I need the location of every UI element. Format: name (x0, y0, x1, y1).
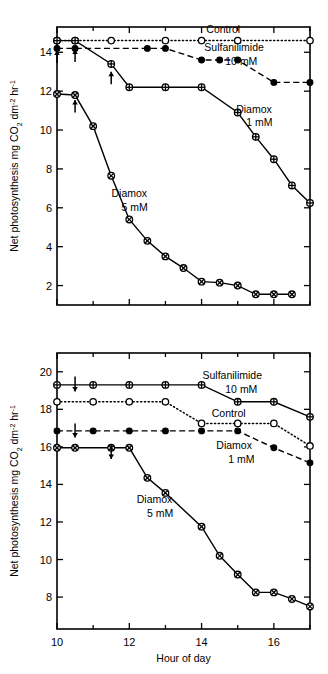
data-point (289, 291, 296, 298)
series-diamox-1-mm (54, 428, 313, 466)
x-tick-label: 10 (51, 636, 63, 648)
data-point (90, 399, 96, 405)
marker-filled-circle (235, 428, 241, 434)
series-annotation: Control (206, 23, 240, 35)
series-annotation: 5 mM (122, 201, 148, 213)
marker-open-circle (54, 399, 60, 405)
y-tick-label: 10 (40, 124, 52, 136)
panel-top: 2468101214ControlSulfanilimide10 mMDiamo… (40, 23, 314, 305)
x-tick-label: 14 (195, 636, 207, 648)
y-tick-label: 20 (40, 366, 52, 378)
treatment-arrow (72, 376, 78, 391)
data-point (289, 596, 296, 603)
series-diamox-1-mm (54, 37, 314, 206)
marker-open-circle (108, 37, 114, 43)
data-point (234, 399, 241, 406)
data-point (307, 603, 314, 610)
data-point (307, 460, 313, 466)
data-point (252, 589, 259, 596)
data-point (126, 216, 133, 223)
data-point (271, 445, 277, 451)
data-point (307, 414, 314, 421)
marker-open-circle (307, 37, 313, 43)
data-point (271, 156, 278, 163)
data-point (307, 443, 313, 449)
data-point (199, 57, 205, 63)
data-point (108, 172, 115, 179)
data-point (271, 420, 277, 426)
data-point (72, 445, 79, 452)
marker-filled-circle (126, 428, 132, 434)
data-point (289, 182, 296, 189)
data-point (54, 445, 61, 452)
data-point (144, 238, 151, 245)
data-point (144, 475, 151, 482)
data-point (90, 428, 96, 434)
series-diamox-5-mm (54, 445, 314, 610)
y-tick-label: 18 (40, 403, 52, 415)
series-control (54, 37, 313, 43)
data-point (126, 428, 132, 434)
data-point (307, 37, 313, 43)
data-point (54, 37, 61, 44)
series-line (57, 448, 310, 607)
data-point (54, 428, 60, 434)
x-tick-label: 12 (123, 636, 135, 648)
y-tick-label: 6 (46, 202, 52, 214)
data-point (108, 61, 115, 68)
y-tick-label: 4 (46, 241, 52, 253)
y-tick-label: 16 (40, 441, 52, 453)
marker-filled-circle (90, 428, 96, 434)
data-point (72, 37, 79, 44)
data-point (126, 445, 133, 452)
marker-open-circle (126, 399, 132, 405)
data-point (198, 84, 205, 91)
marker-filled-circle (199, 57, 205, 63)
y-tick-label: 14 (40, 46, 52, 58)
series-annotation: Sulfanilimide (204, 41, 264, 53)
data-point (271, 80, 277, 86)
y-axis-title: Net photosynthesis mg CO2 dm-2 hr-1 (8, 405, 23, 577)
series-annotation: Diamox (111, 187, 147, 199)
arrow-head (108, 454, 114, 459)
marker-filled-circle (199, 428, 205, 434)
plot-frame (57, 353, 310, 629)
treatment-arrow (108, 72, 114, 85)
series-annotation: 5 mM (147, 507, 173, 519)
series-annotation: Diamox (216, 439, 252, 451)
arrow-head (72, 387, 78, 392)
data-point (234, 282, 241, 289)
marker-open-circle (307, 443, 313, 449)
data-point (163, 428, 169, 434)
data-point (198, 523, 205, 530)
series-annotation: Control (212, 407, 246, 419)
data-point (180, 265, 187, 272)
marker-filled-circle (163, 428, 169, 434)
marker-filled-circle (163, 45, 169, 51)
data-point (162, 253, 169, 260)
data-point (54, 382, 61, 389)
data-point (126, 382, 133, 389)
marker-filled-circle (307, 460, 313, 466)
series-annotation: 10 mM (225, 383, 257, 395)
data-point (252, 134, 259, 141)
dual-panel-line-chart: 2468101214ControlSulfanilimide10 mMDiamo… (0, 0, 328, 674)
panel-bottom: 810121416182010121416Hour of daySulfanil… (40, 353, 314, 664)
treatment-arrow (72, 100, 78, 113)
y-tick-label: 8 (46, 163, 52, 175)
data-point (271, 291, 278, 298)
data-point (271, 399, 278, 406)
marker-filled-circle (271, 80, 277, 86)
data-point (72, 92, 79, 99)
data-point (126, 84, 133, 91)
series-annotation: Diamox (236, 103, 272, 115)
x-axis-title: Hour of day (156, 652, 211, 664)
data-point (216, 552, 223, 559)
y-tick-label: 8 (46, 591, 52, 603)
series-annotation: 10 mM (225, 55, 257, 67)
x-tick-label: 16 (268, 636, 280, 648)
y-tick-label: 10 (40, 554, 52, 566)
y-tick-label: 2 (46, 280, 52, 292)
y-tick-label: 12 (40, 85, 52, 97)
treatment-arrow (72, 49, 78, 62)
